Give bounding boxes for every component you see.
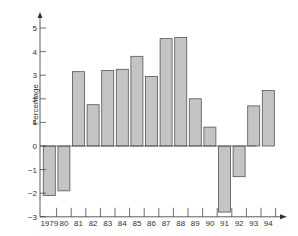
x-tick-label: 86 xyxy=(147,219,156,228)
x-tick-label: 93 xyxy=(249,219,258,228)
x-tick-label: 92 xyxy=(235,219,244,228)
x-tick-label: 83 xyxy=(103,219,112,228)
x-tick-label: 84 xyxy=(118,219,127,228)
x-tick-label: 80 xyxy=(59,219,68,228)
bar xyxy=(233,146,245,177)
x-tick-label: 85 xyxy=(132,219,141,228)
bar xyxy=(219,146,231,212)
bar xyxy=(87,105,99,146)
y-tick-label: 0 xyxy=(33,142,38,151)
y-axis-label: Percentage xyxy=(31,84,40,125)
bar xyxy=(58,146,70,191)
bar xyxy=(204,127,216,146)
bar xyxy=(73,72,85,146)
y-tick-label: 3 xyxy=(33,71,38,80)
x-tick-label: 87 xyxy=(162,219,171,228)
bar xyxy=(160,39,172,146)
bar xyxy=(102,70,114,146)
x-tick-label: 91 xyxy=(220,219,229,228)
x-tick-label: 90 xyxy=(205,219,214,228)
y-axis-arrow-icon xyxy=(38,12,43,18)
x-axis-arrow-icon xyxy=(280,214,287,219)
x-tick-label: 89 xyxy=(191,219,200,228)
bar xyxy=(189,99,201,146)
y-tick-label: 5 xyxy=(33,24,38,33)
x-tick-label: 81 xyxy=(74,219,83,228)
bar xyxy=(131,56,143,146)
x-tick-label: 1979 xyxy=(40,219,58,228)
x-tick-label: 94 xyxy=(264,219,273,228)
y-tick-label: −1 xyxy=(28,166,38,175)
y-tick-label: −3 xyxy=(28,213,38,222)
bar-chart-svg: −3−2−10123451979808182838485868788899091… xyxy=(0,0,298,236)
bar xyxy=(248,106,260,146)
bar xyxy=(175,37,187,146)
bar xyxy=(262,91,274,146)
bar xyxy=(43,146,55,196)
y-tick-label: −2 xyxy=(28,189,38,198)
bar xyxy=(116,69,128,146)
x-tick-label: 88 xyxy=(176,219,185,228)
x-tick-label: 82 xyxy=(89,219,98,228)
y-tick-label: 4 xyxy=(33,48,38,57)
bar xyxy=(146,76,158,146)
